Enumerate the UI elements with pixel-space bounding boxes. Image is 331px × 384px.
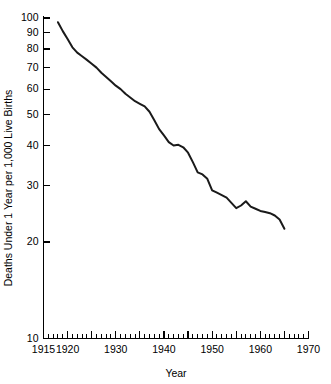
x-tick-label-1915: 1915	[32, 343, 56, 355]
x-axis-ticks	[44, 331, 309, 339]
y-axis-ticks	[44, 18, 50, 339]
x-tick-label-1920: 1920	[56, 343, 80, 355]
y-tick-label-30: 30	[27, 179, 39, 191]
x-axis-title: Year	[165, 367, 187, 379]
y-tick-label-90: 90	[27, 26, 39, 38]
y-axis-title: Deaths Under 1 Year per 1,000 Live Birth…	[2, 90, 14, 287]
line-chart-plot: 100908070605040302010 191519201930194019…	[0, 0, 331, 384]
x-axis-tick-labels: 1915192019301940195019601970	[32, 343, 321, 355]
chart-container: 100908070605040302010 191519201930194019…	[0, 0, 331, 384]
y-tick-label-80: 80	[27, 42, 39, 54]
y-tick-label-100: 100	[21, 11, 39, 23]
y-tick-label-20: 20	[27, 235, 39, 247]
x-tick-label-1940: 1940	[152, 343, 176, 355]
x-tick-label-1930: 1930	[104, 343, 128, 355]
data-series-line	[58, 22, 284, 229]
y-tick-label-50: 50	[27, 108, 39, 120]
x-tick-label-1960: 1960	[249, 343, 273, 355]
y-tick-label-70: 70	[27, 61, 39, 73]
y-axis-tick-labels: 100908070605040302010	[21, 11, 39, 344]
x-tick-label-1950: 1950	[200, 343, 224, 355]
y-tick-label-40: 40	[27, 139, 39, 151]
x-tick-label-1970: 1970	[297, 343, 321, 355]
y-tick-label-60: 60	[27, 82, 39, 94]
